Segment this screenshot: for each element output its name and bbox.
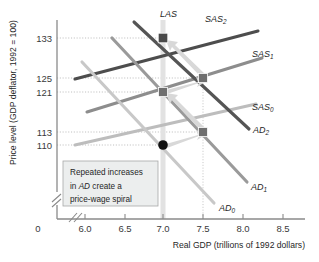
label-las: LAS <box>160 9 177 19</box>
y-tick-133: 133 <box>36 33 52 44</box>
price-wage-spiral-callout: Repeated increases in AD create a price-… <box>63 161 158 206</box>
point-7-0-121 <box>158 87 167 96</box>
label-sas2: SAS2 <box>205 14 227 25</box>
y-tick-113: 113 <box>37 127 52 138</box>
label-ad2: AD2 <box>252 125 270 136</box>
label-sas1: SAS1 <box>252 49 274 60</box>
point-7-5-125 <box>198 73 207 82</box>
sas-curves <box>75 31 262 145</box>
y-tick-121: 121 <box>36 87 52 98</box>
label-ad1: AD1 <box>250 182 268 193</box>
gridlines <box>57 38 208 145</box>
callout-line-2: in AD create a <box>70 182 122 191</box>
callout-line-3: price-wage spiral <box>70 195 132 204</box>
callout-line-1: Repeated increases <box>70 168 143 177</box>
label-sas0: SAS0 <box>252 102 274 113</box>
x-tick-7-5: 7.5 <box>196 223 209 234</box>
x-tick-6-0: 6.0 <box>78 223 91 234</box>
y-tick-labels: 133 125 121 113 110 <box>36 33 52 151</box>
y-axis-title: Price level (GDP deflator, 1992 = 100) <box>8 20 18 165</box>
x-tickmarks <box>85 214 283 219</box>
chart-figure: Repeated increases in AD create a price-… <box>0 0 319 262</box>
x-tick-8-5: 8.5 <box>276 223 289 234</box>
spiral-arrow-2 <box>166 93 205 131</box>
x-tick-6-5: 6.5 <box>118 223 131 234</box>
x-tick-labels: 0 6.0 6.5 7.0 7.5 8.0 8.5 <box>35 223 289 234</box>
y-tick-110: 110 <box>37 140 52 151</box>
point-7-5-113 <box>198 127 207 136</box>
x-axis-break <box>69 213 82 222</box>
point-7-0-133 <box>158 33 168 43</box>
point-7-0-110-start <box>158 140 168 150</box>
x-tick-8-0: 8.0 <box>236 223 249 234</box>
x-axis-title: Real GDP (trillions of 1992 dollars) <box>173 240 305 250</box>
x-tick-7-0: 7.0 <box>156 223 169 234</box>
y-tick-125: 125 <box>36 73 52 84</box>
label-ad0: AD0 <box>218 203 236 214</box>
price-wage-spiral-chart: Repeated increases in AD create a price-… <box>0 0 319 262</box>
x-tick-0: 0 <box>35 223 40 234</box>
